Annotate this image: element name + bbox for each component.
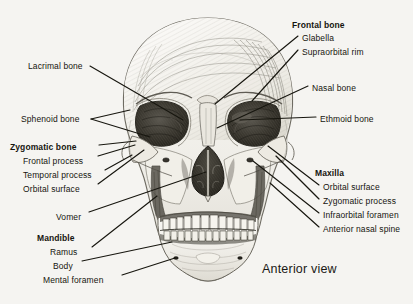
leader-anterior-nasal-spine [270,183,319,227]
label-frontal-process: Frontal process [23,157,83,166]
label-ramus: Ramus [50,248,77,257]
label-nasal-bone: Nasal bone [312,84,356,93]
label-glabella: Glabella [302,34,334,43]
label-mandible: Mandible [37,234,75,243]
label-mental-foramen: Mental foramen [43,276,103,285]
leader-ramus [92,196,157,247]
leader-orbital-surface-zygomatic [98,150,144,184]
label-maxilla: Maxilla [315,169,344,178]
label-ethmoid-bone: Ethmoid bone [320,115,374,124]
label-supraorbital-rim: Supraorbital rim [302,48,364,57]
label-sphenoid-bone: Sphenoid bone [21,115,80,124]
label-infraorbital-foramen: Infraorbital foramen [323,211,399,220]
skull-illustration [0,0,413,304]
label-orbital-surface-maxilla: Orbital surface [323,183,380,192]
label-zygomatic-bone: Zygomatic bone [10,143,77,152]
label-orbital-surface-zygomatic: Orbital surface [23,185,80,194]
label-frontal-bone: Frontal bone [292,21,345,30]
label-lacrimal-bone: Lacrimal bone [28,62,83,71]
view-caption: Anterior view [262,265,337,274]
label-anterior-nasal-spine: Anterior nasal spine [323,225,400,234]
label-body: Body [53,262,73,271]
label-zygomatic-process: Zygomatic process [323,197,396,206]
leader-mental-foramen [122,258,175,275]
skull-anatomy-figure: Lacrimal bone Sphenoid bone Zygomatic bo… [0,0,413,304]
skull-body [118,14,298,281]
leader-zygomatic-process [276,156,319,199]
teeth [160,212,256,245]
label-vomer: Vomer [56,213,81,222]
label-temporal-process: Temporal process [23,171,92,180]
